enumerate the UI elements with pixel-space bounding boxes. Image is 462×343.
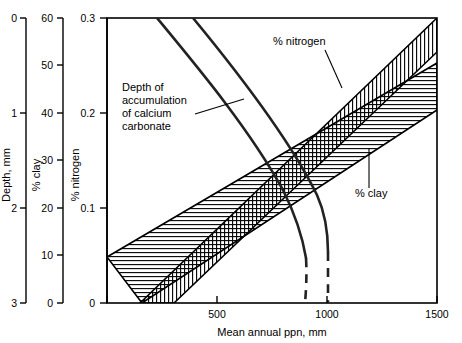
clay-axis-title: % clay bbox=[30, 158, 42, 191]
clay-tick-label-60: 60 bbox=[41, 12, 53, 24]
clay-band-label: % clay bbox=[355, 187, 388, 199]
calcium-carbonate-label-line-3: of calcium bbox=[122, 107, 172, 119]
nitrogen-tick-label-0.1: 0.1 bbox=[80, 202, 95, 214]
nitrogen-axis-title: % nitrogen bbox=[69, 149, 81, 202]
clay-tick-label-0: 0 bbox=[47, 297, 53, 309]
chart-svg: 500 1000 1500 Mean annual ppn, mm 0.3 0.… bbox=[0, 0, 462, 343]
x-tick-label-500: 500 bbox=[208, 308, 226, 320]
clay-tick-label-40: 40 bbox=[41, 107, 53, 119]
depth-axis-title: Depth, mm bbox=[0, 148, 12, 202]
depth-tick-label-1: 1 bbox=[11, 107, 17, 119]
calcium-carbonate-label-line-4: carbonate bbox=[122, 120, 171, 132]
x-axis-title: Mean annual ppn, mm bbox=[217, 326, 326, 338]
nitrogen-tick-label-0.3: 0.3 bbox=[80, 12, 95, 24]
depth-tick-label-2: 2 bbox=[11, 202, 17, 214]
depth-tick-label-3: 3 bbox=[11, 297, 17, 309]
calcium-carbonate-label-line-2: accumulation bbox=[122, 94, 187, 106]
clay-tick-label-10: 10 bbox=[41, 249, 53, 261]
x-tick-label-1000: 1000 bbox=[315, 308, 339, 320]
depth-tick-label-0: 0 bbox=[11, 12, 17, 24]
calcium-carbonate-label-line-1: Depth of bbox=[122, 81, 165, 93]
carbonate-depth-curve-left-dashed bbox=[305, 258, 306, 303]
clay-tick-label-30: 30 bbox=[41, 154, 53, 166]
nitrogen-tick-label-0: 0 bbox=[89, 297, 95, 309]
nitrogen-band-label: % nitrogen bbox=[273, 35, 326, 47]
clay-tick-label-20: 20 bbox=[41, 202, 53, 214]
figure-container: 500 1000 1500 Mean annual ppn, mm 0.3 0.… bbox=[0, 0, 462, 343]
x-tick-label-1500: 1500 bbox=[425, 308, 449, 320]
clay-tick-label-50: 50 bbox=[41, 59, 53, 71]
nitrogen-tick-label-0.2: 0.2 bbox=[80, 107, 95, 119]
